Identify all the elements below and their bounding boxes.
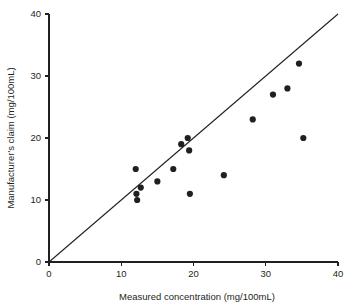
y-tick-label: 0 [36, 256, 41, 267]
data-point [221, 172, 227, 178]
data-point [133, 191, 139, 197]
identity-line [49, 14, 338, 262]
data-point [154, 178, 160, 184]
data-point [284, 85, 290, 91]
data-point [178, 141, 184, 147]
data-point [186, 147, 192, 153]
x-tick-label: 20 [188, 268, 199, 279]
scatter-plot-figure: 010203040 010203040 Measured concentrati… [0, 0, 355, 308]
data-point [250, 116, 256, 122]
data-point [170, 166, 176, 172]
x-axis-title: Measured concentration (mg/100mL) [119, 291, 275, 302]
y-tick-label: 10 [30, 194, 41, 205]
data-points [133, 61, 307, 204]
data-point [134, 197, 140, 203]
x-tick-label: 40 [333, 268, 344, 279]
y-tick-label: 20 [30, 132, 41, 143]
data-point [138, 185, 144, 191]
data-point [270, 92, 276, 98]
data-point [296, 61, 302, 67]
plot-canvas: 010203040 010203040 Measured concentrati… [0, 0, 355, 308]
x-tick-label: 30 [260, 268, 271, 279]
x-tick-label: 10 [116, 268, 127, 279]
x-axis-ticks: 010203040 [46, 262, 343, 279]
y-axis-ticks: 010203040 [30, 8, 49, 267]
data-point [133, 166, 139, 172]
y-tick-label: 30 [30, 70, 41, 81]
x-tick-label: 0 [46, 268, 51, 279]
data-point [185, 135, 191, 141]
y-axis-title: Manufacturer's claim (mg/100mL) [5, 67, 16, 208]
data-point [300, 135, 306, 141]
data-point [187, 191, 193, 197]
y-tick-label: 40 [30, 8, 41, 19]
